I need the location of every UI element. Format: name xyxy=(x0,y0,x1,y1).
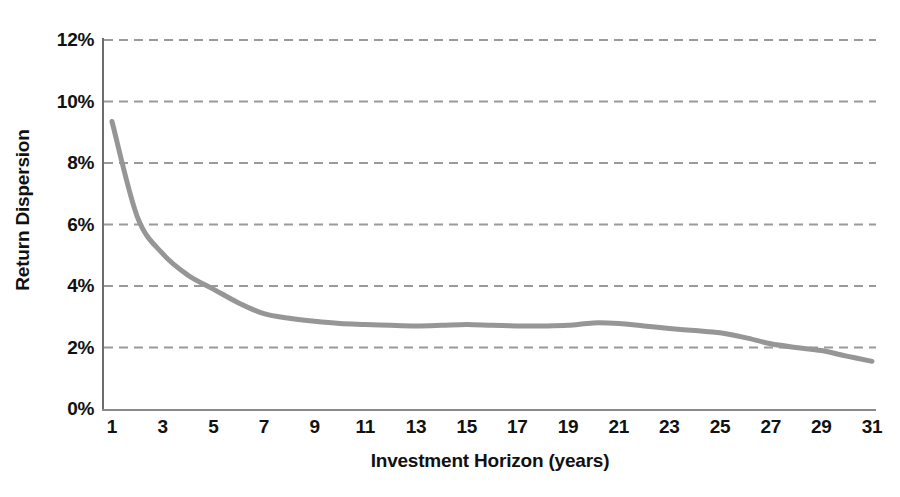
plot-area xyxy=(104,40,876,409)
x-axis-tick-labels: 135791113151719212325272931 xyxy=(0,416,900,446)
x-tick-label: 25 xyxy=(700,416,740,438)
y-tick-label: 4% xyxy=(36,275,94,297)
x-tick-label: 11 xyxy=(345,416,385,438)
x-tick-label: 27 xyxy=(751,416,791,438)
x-tick-label: 19 xyxy=(548,416,588,438)
x-tick-label: 15 xyxy=(447,416,487,438)
x-axis-title: Investment Horizon (years) xyxy=(104,450,876,472)
x-tick-label: 7 xyxy=(244,416,284,438)
y-axis-title-label: Return Dispersion xyxy=(12,129,34,290)
x-tick-label: 3 xyxy=(143,416,183,438)
x-tick-label: 23 xyxy=(649,416,689,438)
y-tick-label: 6% xyxy=(36,214,94,236)
x-tick-label: 1 xyxy=(92,416,132,438)
x-tick-label: 21 xyxy=(599,416,639,438)
y-tick-label: 8% xyxy=(36,152,94,174)
x-tick-label: 17 xyxy=(497,416,537,438)
y-tick-label: 2% xyxy=(36,337,94,359)
x-tick-label: 13 xyxy=(396,416,436,438)
plot-svg xyxy=(104,40,876,409)
x-tick-label: 29 xyxy=(801,416,841,438)
x-tick-label: 31 xyxy=(852,416,892,438)
y-tick-label: 10% xyxy=(36,91,94,113)
series-line-return-dispersion xyxy=(112,121,872,361)
x-tick-label: 9 xyxy=(295,416,335,438)
x-tick-label: 5 xyxy=(193,416,233,438)
chart-container: Return Dispersion 0%2%4%6%8%10%12% 13579… xyxy=(0,0,900,497)
gridlines xyxy=(104,40,876,348)
y-tick-label: 12% xyxy=(36,29,94,51)
x-axis-line xyxy=(102,409,876,411)
